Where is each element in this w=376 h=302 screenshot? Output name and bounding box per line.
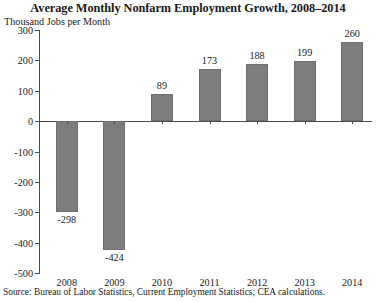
y-tick-mark	[35, 30, 40, 31]
bar	[294, 61, 316, 121]
bar	[151, 94, 173, 121]
x-tick-mark	[352, 121, 353, 124]
chart-figure: Average Monthly Nonfarm Employment Growt…	[0, 0, 376, 302]
y-tick-label: 0	[28, 116, 33, 127]
y-tick-mark	[35, 121, 40, 122]
bar-value-label: -298	[37, 214, 97, 225]
y-tick-mark	[35, 273, 40, 274]
bar	[246, 64, 268, 121]
y-tick-label: -100	[14, 146, 33, 157]
x-tick-mark	[162, 121, 163, 124]
zero-baseline	[39, 121, 372, 122]
y-tick-label: 300	[18, 25, 33, 36]
y-tick-label: -200	[14, 176, 33, 187]
bar-value-label: 199	[275, 47, 335, 58]
x-tick-mark	[114, 121, 115, 124]
y-tick-mark	[35, 182, 40, 183]
bar-value-label: -424	[84, 252, 144, 263]
y-tick-label: -500	[14, 268, 33, 279]
x-tick-mark	[210, 121, 211, 124]
bar	[56, 121, 78, 212]
y-tick-label: 100	[18, 85, 33, 96]
y-tick-mark	[35, 60, 40, 61]
y-tick-mark	[35, 152, 40, 153]
x-tick-mark	[67, 121, 68, 124]
bar-value-label: 260	[322, 28, 376, 39]
x-tick-mark	[257, 121, 258, 124]
y-tick-label: 200	[18, 55, 33, 66]
plot-area: 3002001000-100-200-300-400-500 -298-4248…	[39, 30, 372, 273]
chart-title: Average Monthly Nonfarm Employment Growt…	[0, 1, 376, 16]
y-tick-mark	[35, 91, 40, 92]
y-tick-mark	[35, 243, 40, 244]
bar	[199, 69, 221, 122]
bar	[103, 121, 125, 250]
source-note: Source: Bureau of Labor Statistics, Curr…	[3, 287, 325, 297]
bar	[341, 42, 363, 121]
y-tick-label: -400	[14, 237, 33, 248]
y-tick-label: -300	[14, 207, 33, 218]
bar-value-label: 89	[132, 80, 192, 91]
x-tick-mark	[305, 121, 306, 124]
x-axis-label: 2014	[322, 277, 376, 288]
